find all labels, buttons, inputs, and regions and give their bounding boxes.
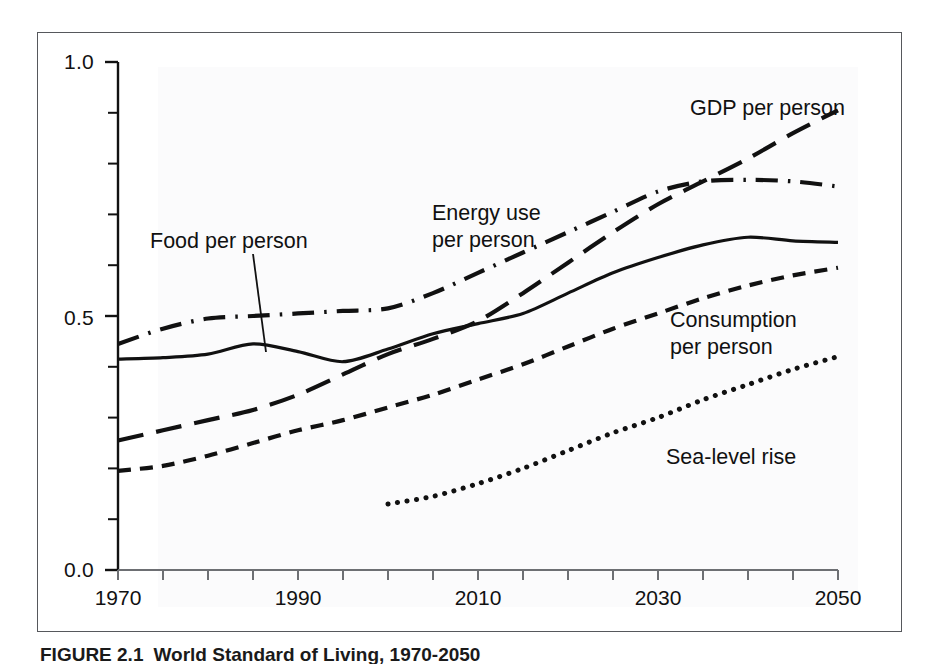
axis-lines (105, 62, 838, 580)
series-line-gdp-per-person (118, 110, 838, 440)
figure-container: 1.0 0.5 0.0 1970 1990 2010 2030 2050 Foo… (0, 0, 939, 664)
caption-number: FIGURE 2.1 (40, 644, 143, 664)
caption-text: World Standard of Living, 1970-2050 (153, 644, 480, 664)
series-line-consumption-per-person (118, 268, 838, 471)
food-leader-line (253, 254, 266, 352)
chart-plot-area (0, 0, 939, 664)
series-line-food-per-person (118, 237, 838, 362)
data-series-layer (118, 110, 838, 504)
series-line-sea-level-rise (388, 357, 838, 504)
y-axis-ticks (105, 62, 118, 570)
series-line-energy-use-per-person (118, 180, 838, 344)
x-axis-ticks (118, 570, 838, 580)
figure-caption: FIGURE 2.1World Standard of Living, 1970… (40, 644, 920, 664)
